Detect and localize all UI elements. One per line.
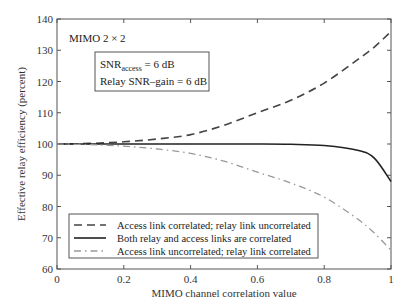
x-tick-label: 0.8 — [317, 273, 331, 285]
y-axis-label: Effective relay efficiency (percent) — [15, 67, 28, 221]
legend-item: Access link uncorrelated; relay link cor… — [117, 246, 312, 257]
y-tick-label: 120 — [37, 76, 54, 88]
x-tick-label: 0 — [54, 273, 60, 285]
y-tick-label: 110 — [37, 107, 54, 119]
y-tick-label: 80 — [42, 201, 54, 213]
x-tick-label: 0.4 — [184, 273, 198, 285]
line-chart: 60708090100110120130140 00.20.40.60.81 M… — [0, 0, 412, 307]
y-tick-label: 100 — [37, 138, 54, 150]
x-tick-label: 0.2 — [117, 273, 131, 285]
legend: Access link correlated; relay link uncor… — [69, 214, 318, 258]
y-tick-label: 130 — [37, 44, 54, 56]
x-tick-label: 1 — [388, 273, 394, 285]
parameter-box: SNRaccess = 6 dB Relay SNR–gain = 6 dB — [95, 52, 209, 91]
y-tick-label: 70 — [42, 232, 54, 244]
legend-item: Both relay and access links are correlat… — [117, 233, 292, 244]
x-axis-label: MIMO channel correlation value — [151, 287, 296, 299]
y-tick-label: 60 — [42, 263, 54, 275]
y-tick-label: 90 — [42, 169, 54, 181]
x-tick-label: 0.6 — [251, 273, 265, 285]
legend-item: Access link correlated; relay link uncor… — [117, 220, 312, 231]
relay-gain-annotation: Relay SNR–gain = 6 dB — [100, 75, 207, 87]
y-tick-label: 140 — [37, 13, 54, 25]
config-annotation: MIMO 2 × 2 — [69, 32, 126, 44]
